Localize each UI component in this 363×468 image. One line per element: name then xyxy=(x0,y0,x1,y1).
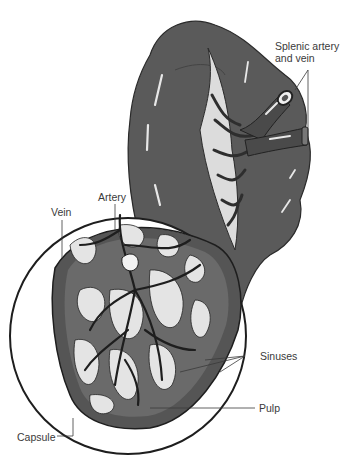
label-splenic-line1: Splenic artery xyxy=(275,40,339,52)
magnified-section xyxy=(10,215,246,454)
label-vein: Vein xyxy=(51,206,71,218)
label-splenic-line2: and vein xyxy=(275,52,339,64)
label-pulp: Pulp xyxy=(259,402,280,414)
label-sinuses: Sinuses xyxy=(260,350,297,362)
label-splenic-artery-vein: Splenic artery and vein xyxy=(275,40,339,64)
label-artery: Artery xyxy=(98,191,126,203)
label-capsule: Capsule xyxy=(17,431,56,443)
spleen-diagram xyxy=(0,0,363,468)
